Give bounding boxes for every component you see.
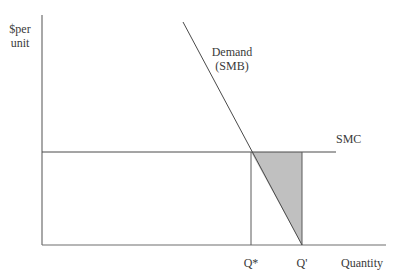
y-axis-label-line2: unit — [2, 36, 38, 50]
q-prime-label: Q' — [289, 256, 315, 270]
smc-label: SMC — [336, 132, 361, 146]
y-axis-label-line1: $per — [2, 22, 38, 36]
y-axis-label: $per unit — [2, 22, 38, 50]
demand-label-line2: (SMB) — [204, 59, 260, 73]
demand-label: Demand (SMB) — [204, 45, 260, 73]
q-star-label: Q* — [238, 256, 264, 270]
demand-label-line1: Demand — [204, 45, 260, 59]
x-axis-label: Quantity — [341, 256, 383, 270]
